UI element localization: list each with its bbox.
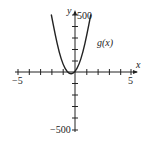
graph: x y −5 5 500 −500 g(x) bbox=[0, 0, 145, 146]
x-max-label: 5 bbox=[128, 75, 133, 86]
y-max-label: 500 bbox=[77, 10, 92, 21]
x-axis-label: x bbox=[135, 59, 141, 70]
g-curve bbox=[51, 15, 91, 74]
y-axis-label: y bbox=[66, 5, 72, 16]
x-axis-arrow-icon bbox=[133, 70, 138, 74]
curve-label: g(x) bbox=[97, 37, 114, 49]
y-min-label: −500 bbox=[50, 124, 71, 135]
x-min-label: −5 bbox=[12, 75, 23, 86]
